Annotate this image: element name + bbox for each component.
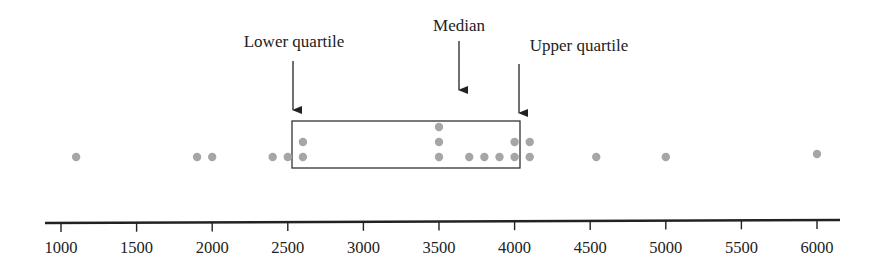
data-dot	[299, 138, 307, 146]
x-tick-label: 4000	[498, 238, 531, 257]
data-dot	[662, 153, 670, 161]
data-dot	[480, 153, 488, 161]
data-dot	[435, 123, 443, 131]
dot-plot-chart: Lower quartile Median Upper quartile 100…	[0, 0, 884, 268]
data-dot	[813, 150, 821, 158]
data-dot	[592, 153, 600, 161]
upper-quartile-label: Upper quartile	[530, 36, 629, 55]
data-dot	[465, 153, 473, 161]
x-axis-line	[45, 220, 840, 223]
data-dot	[72, 153, 80, 161]
x-tick-label: 2500	[271, 238, 304, 257]
x-tick-label: 2000	[196, 238, 229, 257]
data-dot	[526, 138, 534, 146]
x-axis-ticks: 1000150020002500300035004000450050005500…	[45, 220, 834, 257]
data-dot	[495, 153, 503, 161]
data-dot	[435, 153, 443, 161]
annotations: Lower quartile Median Upper quartile	[244, 16, 629, 113]
data-dot	[284, 153, 292, 161]
data-dots	[72, 123, 821, 161]
data-dot	[208, 153, 216, 161]
data-dot	[435, 138, 443, 146]
x-tick-label: 4500	[574, 238, 607, 257]
data-dot	[268, 153, 276, 161]
x-tick-label: 5500	[725, 238, 758, 257]
x-tick-label: 1500	[120, 238, 153, 257]
data-dot	[510, 138, 518, 146]
x-tick-label: 1000	[45, 238, 78, 257]
data-dot	[193, 153, 201, 161]
data-dot	[510, 153, 518, 161]
median-label: Median	[433, 16, 485, 35]
x-tick-label: 3000	[347, 238, 380, 257]
data-dot	[299, 153, 307, 161]
lower-quartile-label: Lower quartile	[244, 32, 345, 51]
x-tick-label: 5000	[649, 238, 682, 257]
quartile-box	[292, 121, 520, 168]
data-dot	[526, 153, 534, 161]
x-tick-label: 6000	[801, 238, 834, 257]
x-tick-label: 3500	[423, 238, 456, 257]
